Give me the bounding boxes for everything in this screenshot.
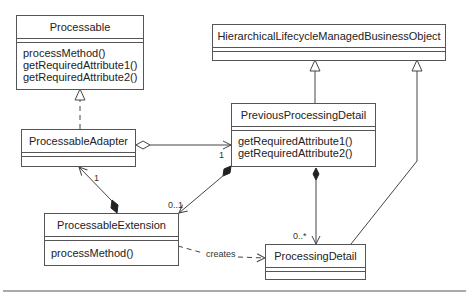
operations-compartment: processMethod(): [45, 241, 178, 263]
dependency-label: creates: [206, 249, 236, 259]
multiplicity-label: 1: [219, 150, 224, 160]
multiplicity-label: 0..1: [168, 200, 183, 210]
class-processable-extension: ProcessableExtension processMethod(): [44, 213, 179, 266]
operation: getRequiredAttribute1(): [238, 135, 375, 147]
class-name: ProcessableAdapter: [22, 130, 135, 153]
class-processable-adapter: ProcessableAdapter: [21, 129, 136, 167]
aggregation-connector: [136, 141, 231, 149]
operation: processMethod(): [51, 247, 178, 259]
class-hierarchical-lifecycle-managed-business-object: HierarchicalLifecycleManagedBusinessObje…: [212, 24, 446, 61]
operation: processMethod(): [23, 47, 143, 59]
composition-connector-previous-processing: [313, 168, 319, 244]
multiplicity-label: 0..*: [293, 231, 307, 241]
class-processable: Processable processMethod() getRequiredA…: [16, 15, 144, 90]
operation: getRequiredAttribute1(): [23, 59, 143, 71]
class-previous-processing-detail: PreviousProcessingDetail getRequiredAttr…: [231, 103, 376, 167]
operations-compartment: getRequiredAttribute1() getRequiredAttri…: [232, 131, 375, 163]
class-name: PreviousProcessingDetail: [232, 104, 375, 127]
generalization-connector-previous: [310, 60, 320, 103]
class-name: HierarchicalLifecycleManagedBusinessObje…: [213, 25, 445, 48]
operation: getRequiredAttribute2(): [23, 71, 143, 83]
multiplicity-label: 1: [94, 173, 99, 183]
attributes-compartment: [266, 268, 365, 272]
attributes-compartment: [22, 153, 135, 157]
class-name: ProcessingDetail: [266, 245, 365, 268]
operations-compartment: processMethod() getRequiredAttribute1() …: [17, 43, 143, 87]
attributes-compartment: [213, 48, 445, 52]
class-name: Processable: [17, 16, 143, 39]
operation: getRequiredAttribute2(): [238, 147, 375, 159]
class-processing-detail: ProcessingDetail: [265, 244, 366, 280]
composition-connector-previous-extension: [179, 166, 231, 213]
realization-connector: [75, 89, 85, 129]
class-name: ProcessableExtension: [45, 214, 178, 237]
